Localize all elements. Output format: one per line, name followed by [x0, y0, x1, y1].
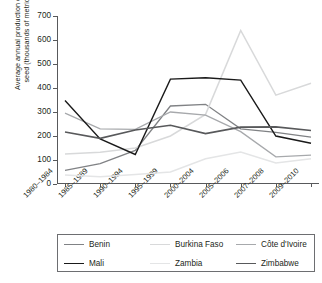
- legend-swatch-line-icon: [150, 244, 170, 245]
- series-lines: [57, 16, 319, 184]
- legend-label: Benin: [89, 240, 110, 249]
- y-tick-label: 700: [37, 12, 51, 20]
- legend-row: BeninBurkina FasoCôte d'Ivoire: [58, 235, 314, 254]
- legend-label: Zimbabwe: [261, 259, 299, 268]
- series-line-burkina-faso: [65, 30, 311, 154]
- y-tick-label: 400: [37, 84, 51, 92]
- legend-label: Zambia: [175, 259, 202, 268]
- legend-swatch-line-icon: [64, 244, 84, 245]
- legend-item-c-te-d-ivoire[interactable]: Côte d'Ivoire: [230, 235, 316, 254]
- legend-item-mali[interactable]: Mali: [58, 254, 144, 273]
- legend-swatch-line-icon: [236, 244, 256, 245]
- legend-swatch-line-icon: [150, 263, 170, 264]
- y-tick-label: 600: [37, 36, 51, 44]
- y-tick-label: 500: [37, 60, 51, 68]
- legend-item-zambia[interactable]: Zambia: [144, 254, 230, 273]
- series-line-mali: [65, 78, 311, 155]
- legend-item-benin[interactable]: Benin: [58, 235, 144, 254]
- legend-swatch-line-icon: [236, 263, 256, 264]
- plot-area: 0100200300400500600700 1980–19841985–198…: [57, 16, 319, 184]
- chart-figure: Average annual production of cotton seed…: [0, 0, 322, 283]
- y-tick-mark: [53, 184, 57, 185]
- y-axis-title: Average annual production of cotton seed…: [13, 0, 32, 111]
- legend-item-zimbabwe[interactable]: Zimbabwe: [230, 254, 316, 273]
- y-tick-label: 300: [37, 108, 51, 116]
- legend-label: Côte d'Ivoire: [261, 240, 307, 249]
- y-tick-label: 100: [37, 156, 51, 164]
- y-tick-label: 200: [37, 132, 51, 140]
- legend-label: Mali: [89, 259, 104, 268]
- legend-row: MaliZambiaZimbabwe: [58, 254, 314, 273]
- y-tick-label: 0: [46, 180, 51, 188]
- legend-label: Burkina Faso: [175, 240, 223, 249]
- legend-item-burkina-faso[interactable]: Burkina Faso: [144, 235, 230, 254]
- legend-swatch-line-icon: [64, 263, 84, 264]
- chart-legend: BeninBurkina FasoCôte d'Ivoire MaliZambi…: [57, 234, 315, 272]
